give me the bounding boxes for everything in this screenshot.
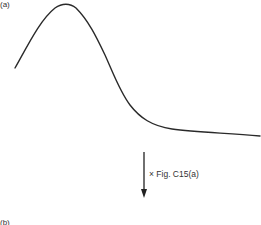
- diagram-canvas: [0, 0, 261, 225]
- peak-curve: [15, 4, 260, 136]
- panel-b-label: (b): [0, 219, 10, 225]
- operation-label: × Fig. C15(a): [149, 169, 199, 179]
- down-arrow-icon: [141, 152, 147, 198]
